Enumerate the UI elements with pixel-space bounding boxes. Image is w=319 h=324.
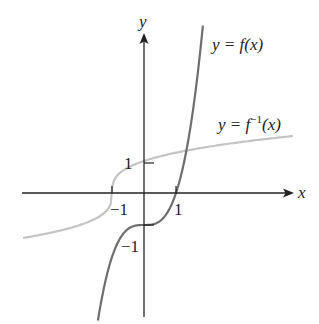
f-label-arg: (x) — [244, 35, 263, 54]
finv-curve-label: y = f−1(x) — [218, 114, 281, 133]
tick-label-y-neg1: −1 — [121, 238, 139, 255]
tick-label-y-1: 1 — [124, 155, 133, 172]
y-axis-label: y — [139, 13, 147, 30]
f-curve-label: y = f(x) — [212, 36, 263, 53]
finv-label-arg: (x) — [262, 115, 281, 134]
finv-label-prefix: y = — [218, 115, 246, 134]
plot-canvas — [0, 0, 319, 324]
tick-label-x-1: 1 — [174, 201, 183, 218]
function-curve — [98, 26, 203, 321]
finv-label-superscript: −1 — [250, 113, 262, 125]
tick-label-x-neg1: −1 — [110, 201, 128, 218]
graph-figure: y x −1 1 1 −1 y = f(x) y = f−1(x) — [0, 0, 319, 324]
f-label-prefix: y = — [212, 35, 240, 54]
x-axis-label: x — [298, 184, 306, 201]
